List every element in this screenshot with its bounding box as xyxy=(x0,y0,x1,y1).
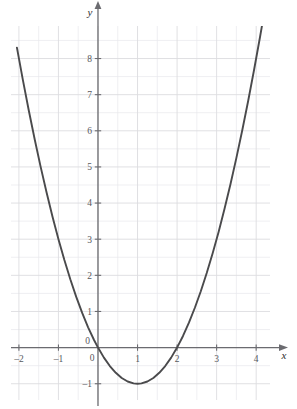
x-axis-label: x xyxy=(281,349,287,361)
origin-label-x: 0 xyxy=(90,353,95,363)
graph-figure: –2–11234–112345678 y x 0 0 xyxy=(0,0,297,409)
x-tick-label: 2 xyxy=(175,354,180,364)
curve-group xyxy=(17,14,264,384)
y-tick-label: 3 xyxy=(87,235,92,245)
origin-label-y: 0 xyxy=(85,336,90,346)
y-tick-label: 6 xyxy=(87,126,92,136)
y-axis-arrowhead xyxy=(95,1,102,9)
x-tick-label: 4 xyxy=(254,354,259,364)
grid-minor-lines xyxy=(11,26,270,400)
y-tick-label: 7 xyxy=(87,90,92,100)
y-axis-label: y xyxy=(87,6,93,18)
x-tick-label: –2 xyxy=(13,354,24,364)
x-tick-label: –1 xyxy=(53,354,64,364)
grid-major-lines xyxy=(11,26,270,400)
y-tick-label: 4 xyxy=(87,198,92,208)
parabola-curve xyxy=(17,14,264,384)
y-tick-label: 5 xyxy=(87,162,92,172)
y-tick-label: –1 xyxy=(81,379,92,389)
y-tick-label: 1 xyxy=(87,307,92,317)
y-tick-label: 8 xyxy=(87,54,92,64)
x-tick-label: 3 xyxy=(214,354,219,364)
coordinate-plane-svg: –2–11234–112345678 y x 0 0 xyxy=(0,0,297,409)
y-tick-label: 2 xyxy=(87,271,92,281)
x-tick-label: 1 xyxy=(135,354,140,364)
